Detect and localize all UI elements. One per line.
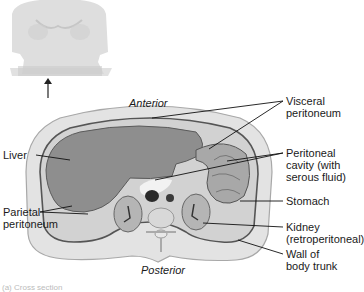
label-kidney: Kidney (retroperitoneal) — [286, 221, 364, 245]
torso-thumbnail — [10, 0, 112, 76]
vena-cava — [166, 194, 174, 202]
label-visceral-peritoneum: Visceral peritoneum — [286, 95, 341, 119]
kidney-left — [114, 196, 142, 232]
label-stomach: Stomach — [286, 195, 329, 207]
posterior-label: Posterior — [141, 264, 185, 276]
label-wall-of-body-trunk: Wall of body trunk — [286, 248, 337, 272]
figure-caption: (a) Cross section — [2, 283, 62, 292]
anterior-label: Anterior — [129, 97, 168, 109]
label-parietal-peritoneum: Parietal peritoneum — [3, 206, 58, 230]
aorta — [145, 190, 159, 202]
label-liver: Liver — [3, 149, 27, 161]
arrow-up-icon — [44, 78, 52, 98]
kidney-right — [182, 194, 210, 230]
label-peritoneal-cavity: Peritoneal cavity (with serous fluid) — [286, 147, 346, 183]
